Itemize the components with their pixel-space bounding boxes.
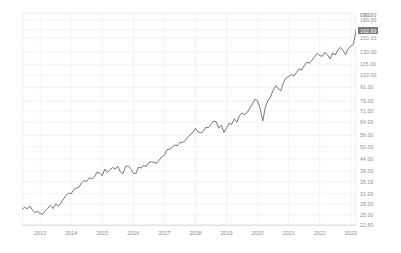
price-tick-label: 130.00 xyxy=(360,49,376,55)
price-tick-label: 39.00 xyxy=(360,168,373,174)
date-tick-label: 2017 xyxy=(158,230,170,236)
price-tick-label: 91.00 xyxy=(360,84,373,90)
price-tick-label: 22.60 xyxy=(360,222,373,228)
date-tick-label: 2023 xyxy=(345,230,357,236)
horizontal-gridlines xyxy=(22,15,356,225)
price-tick-label: 50.00 xyxy=(360,144,373,150)
date-tick-label: 2022 xyxy=(314,230,326,236)
plot-border xyxy=(22,12,356,225)
date-tick-label: 2021 xyxy=(283,230,295,236)
current-price-label[interactable]: 162.69 xyxy=(358,27,378,35)
price-tick-label: 56.00 xyxy=(360,132,373,138)
vertical-gridlines xyxy=(40,12,351,225)
price-tick-label: 115.00 xyxy=(360,61,376,67)
price-tick-label: 28.00 xyxy=(360,201,373,207)
date-tick-label: 2014 xyxy=(65,230,77,236)
price-tick-label: 31.00 xyxy=(360,191,373,197)
price-tick-label: 35.00 xyxy=(360,179,373,185)
price-axis[interactable]: USD190.00180.00162.69150.00130.00115.001… xyxy=(357,12,401,240)
price-tick-label: 25.00 xyxy=(360,212,373,218)
price-tick-label: 103.00 xyxy=(360,72,376,78)
price-tick-label: 180.00 xyxy=(360,17,376,23)
date-tick-label: 2020 xyxy=(252,230,264,236)
price-tick-label: 44.00 xyxy=(360,156,373,162)
date-tick-label: 2019 xyxy=(221,230,233,236)
date-axis[interactable]: 2013201420152016201720182019202020212022… xyxy=(22,228,356,244)
price-tick-label: 79.00 xyxy=(360,98,373,104)
price-tick-label: 64.00 xyxy=(360,119,373,125)
date-tick-label: 2016 xyxy=(127,230,139,236)
axis-baseline xyxy=(22,225,356,226)
price-line-plot xyxy=(22,12,356,225)
price-tick-label: 150.00 xyxy=(360,35,376,41)
date-tick-label: 2018 xyxy=(189,230,201,236)
plot-area[interactable] xyxy=(22,12,356,225)
date-tick-label: 2015 xyxy=(96,230,108,236)
stock-price-chart: USD190.00180.00162.69150.00130.00115.001… xyxy=(0,0,401,253)
price-tick-label: 71.50 xyxy=(360,108,373,114)
date-tick-label: 2013 xyxy=(34,230,46,236)
